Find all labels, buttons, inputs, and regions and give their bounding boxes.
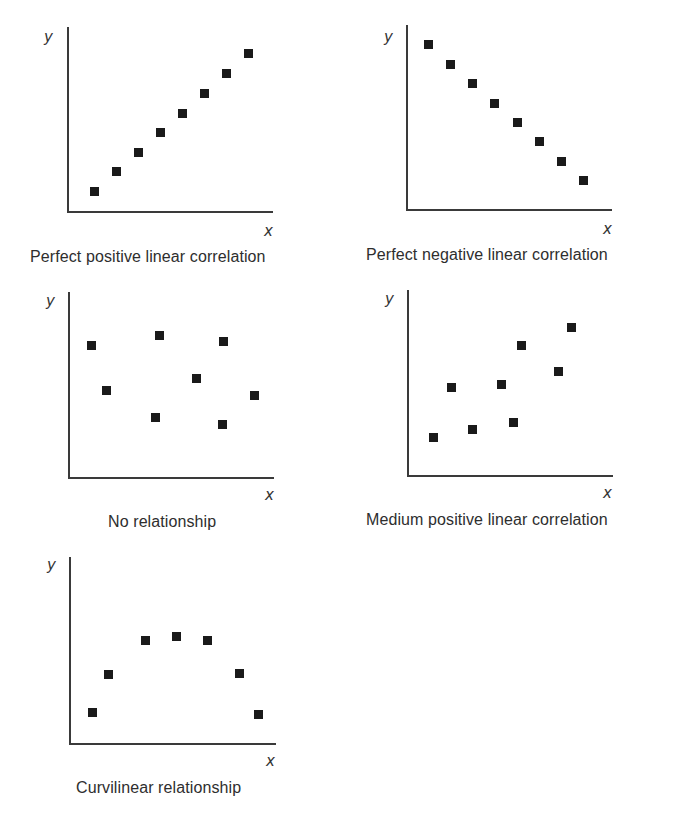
- data-point: [218, 420, 227, 429]
- data-point: [222, 69, 231, 78]
- data-point: [178, 109, 187, 118]
- caption-curvilinear: Curvilinear relationship: [76, 779, 241, 797]
- data-point: [134, 148, 143, 157]
- data-point: [87, 341, 96, 350]
- data-point: [468, 79, 477, 88]
- y-axis-label: y: [384, 290, 395, 308]
- data-point: [535, 137, 544, 146]
- axes: [68, 27, 273, 212]
- data-point: [104, 670, 113, 679]
- axes: [69, 292, 274, 478]
- x-axis-label: x: [263, 222, 273, 240]
- data-point: [203, 636, 212, 645]
- scatter-plot-perfect-negative: yx: [383, 25, 612, 238]
- y-axis-label: y: [45, 292, 56, 310]
- data-point: [200, 89, 209, 98]
- caption-no-relationship: No relationship: [108, 513, 216, 531]
- data-point: [192, 374, 201, 383]
- data-point: [90, 187, 99, 196]
- data-point: [156, 128, 165, 137]
- y-axis-label: y: [383, 28, 394, 46]
- data-point: [112, 167, 121, 176]
- data-point: [424, 40, 433, 49]
- axes: [70, 557, 276, 744]
- figure-canvas: yxyxyxyxyx: [0, 0, 700, 836]
- data-point: [513, 118, 522, 127]
- data-point: [429, 433, 438, 442]
- x-axis-label: x: [602, 220, 612, 238]
- data-point: [497, 380, 506, 389]
- caption-medium-positive: Medium positive linear correlation: [366, 511, 608, 529]
- caption-perfect-positive: Perfect positive linear correlation: [30, 248, 266, 266]
- x-axis-label: x: [265, 752, 275, 770]
- data-point: [141, 636, 150, 645]
- scatter-plot-medium-positive: yx: [384, 290, 613, 502]
- data-point: [254, 710, 263, 719]
- data-point: [172, 632, 181, 641]
- data-point: [219, 337, 228, 346]
- x-axis-label: x: [264, 486, 274, 504]
- caption-perfect-negative: Perfect negative linear correlation: [366, 246, 608, 264]
- axes: [408, 290, 613, 476]
- scatter-plot-curvilinear: yx: [46, 556, 276, 770]
- x-axis-label: x: [602, 484, 612, 502]
- data-point: [102, 386, 111, 395]
- data-point: [579, 176, 588, 185]
- data-point: [250, 391, 259, 400]
- y-axis-label: y: [43, 28, 54, 46]
- data-point: [447, 383, 456, 392]
- scatter-plot-no-relationship: yx: [45, 292, 274, 504]
- data-point: [490, 99, 499, 108]
- data-point: [446, 60, 455, 69]
- data-point: [155, 331, 164, 340]
- data-point: [567, 323, 576, 332]
- data-point: [235, 669, 244, 678]
- data-point: [509, 418, 518, 427]
- data-point: [554, 367, 563, 376]
- data-point: [151, 413, 160, 422]
- data-point: [88, 708, 97, 717]
- y-axis-label: y: [46, 556, 57, 574]
- data-point: [557, 157, 566, 166]
- data-point: [468, 425, 477, 434]
- data-point: [244, 49, 253, 58]
- scatter-plot-perfect-positive: yx: [43, 27, 273, 240]
- data-point: [517, 341, 526, 350]
